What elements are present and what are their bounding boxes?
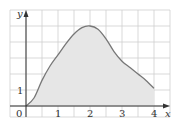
y-axis-arrow-icon: [24, 10, 29, 17]
x-tick-1: 1: [55, 108, 61, 119]
x-tick-4: 4: [151, 108, 157, 119]
x-tick-2: 2: [87, 108, 93, 119]
x-axis-label: x: [165, 108, 171, 119]
y-axis-label: y: [16, 8, 23, 19]
area-fill: [26, 26, 154, 106]
origin-label: 0: [16, 108, 22, 119]
x-tick-3: 3: [119, 108, 125, 119]
area-chart: y x 0 1 2 3 4 1: [0, 0, 179, 127]
y-tick-1: 1: [17, 85, 23, 96]
